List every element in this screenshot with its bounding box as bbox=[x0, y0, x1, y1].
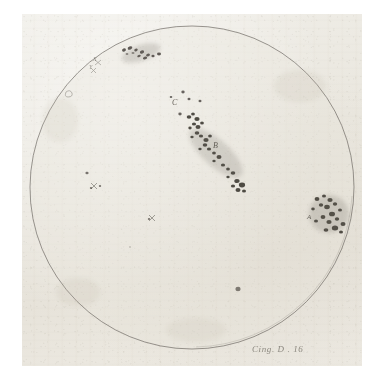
label-limb-mark-2: Y bbox=[89, 64, 92, 70]
label-group-c: C bbox=[172, 99, 177, 107]
label-group-a: A bbox=[307, 214, 311, 221]
plate-caption: Cing. D . 16 bbox=[252, 344, 303, 354]
spot-group-a-haze bbox=[309, 195, 349, 233]
label-group-b: B bbox=[213, 142, 218, 150]
sunspot-drawing bbox=[0, 0, 380, 384]
label-limb-mark-1: X bbox=[93, 56, 97, 62]
figure-page: B C A X Y Cing. D . 16 bbox=[0, 0, 380, 384]
